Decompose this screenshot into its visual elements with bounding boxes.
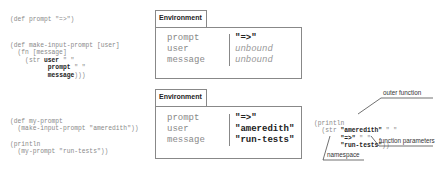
annotation-function-parameters: function parameters	[379, 137, 435, 144]
annotation-namespace: namespace	[327, 151, 360, 158]
annotation-leader-lines	[0, 0, 443, 173]
annotation-outer-function: outer function	[383, 89, 421, 96]
